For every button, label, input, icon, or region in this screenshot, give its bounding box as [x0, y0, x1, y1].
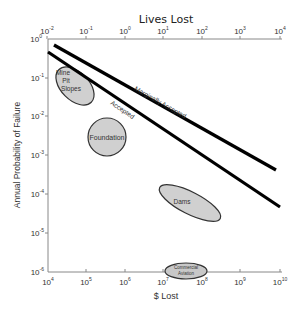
- region-commercial-aviation: CommercialAviation: [165, 263, 207, 279]
- svg-text:107: 107: [157, 276, 169, 287]
- svg-text:109: 109: [234, 276, 246, 287]
- svg-text:10-1: 10-1: [31, 72, 45, 83]
- svg-text:10-2: 10-2: [31, 110, 45, 121]
- region-dams: Dams: [155, 178, 226, 228]
- svg-text:104: 104: [42, 276, 54, 287]
- svg-text:105: 105: [80, 276, 92, 287]
- top-tick-labels: 10-2 10-1 100 101 102 103 104: [40, 25, 286, 36]
- y-tick-labels: 100 10-1 10-2 10-3 10-4 10-5 10-6: [30, 33, 44, 277]
- accepted-line: [48, 52, 280, 207]
- svg-text:106: 106: [119, 276, 131, 287]
- svg-text:10-6: 10-6: [31, 266, 45, 277]
- svg-text:100: 100: [119, 25, 131, 36]
- x-axis-title: $ Lost: [154, 291, 179, 301]
- svg-text:103: 103: [234, 25, 246, 36]
- bottom-tick-labels: 104 105 106 107 108 109 1010: [42, 276, 287, 287]
- svg-text:Foundation: Foundation: [89, 134, 124, 141]
- svg-text:10-4: 10-4: [31, 188, 45, 199]
- y-axis-title: Annual Probability of Failure: [12, 102, 22, 209]
- svg-text:10-3: 10-3: [31, 149, 45, 160]
- region-foundation: Foundation: [88, 118, 126, 156]
- svg-text:101: 101: [157, 25, 169, 36]
- svg-text:10-1: 10-1: [79, 25, 93, 36]
- svg-text:102: 102: [196, 25, 208, 36]
- svg-text:1010: 1010: [273, 276, 288, 287]
- svg-text:104: 104: [274, 25, 286, 36]
- risk-chart: Lives Lost 10-2 10-1 100 101 102 103 104…: [0, 0, 302, 317]
- svg-text:10-2: 10-2: [40, 25, 54, 36]
- svg-text:10-5: 10-5: [31, 227, 45, 238]
- svg-text:100: 100: [30, 33, 42, 44]
- svg-text:Dams: Dams: [174, 198, 192, 205]
